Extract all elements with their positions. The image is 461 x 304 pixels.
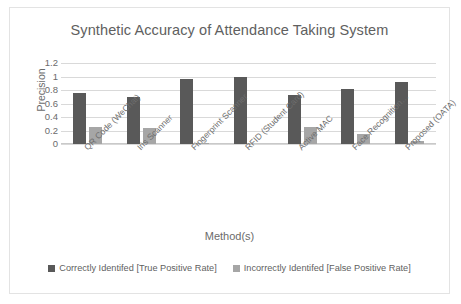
chart-container: Synthetic Accuracy of Attendance Taking …	[9, 7, 450, 294]
y-axis-tick-label: 0.6	[45, 99, 58, 109]
bar[interactable]	[341, 89, 354, 144]
bar[interactable]	[180, 79, 193, 144]
legend-swatch-icon	[233, 265, 240, 272]
y-axis-tick-labels: 00.20.40.60.811.2	[28, 56, 58, 151]
y-axis-tick-label: 0	[53, 139, 58, 149]
legend-item[interactable]: Incorrectly Identifed [False Positive Ra…	[233, 263, 411, 273]
y-axis-tick-label: 0.8	[45, 85, 58, 95]
y-axis-tick-label: 0.2	[45, 126, 58, 136]
legend-label: Correctly Identifed [True Positive Rate]	[59, 263, 216, 273]
chart-legend: Correctly Identifed [True Positive Rate]…	[10, 263, 449, 273]
plot-area	[61, 63, 436, 144]
y-axis-tick-label: 1	[53, 72, 58, 82]
legend-swatch-icon	[48, 265, 55, 272]
chart-title: Synthetic Accuracy of Attendance Taking …	[10, 22, 449, 38]
legend-label: Incorrectly Identifed [False Positive Ra…	[244, 263, 411, 273]
bar[interactable]	[73, 93, 86, 144]
y-axis-tick-label: 1.2	[45, 58, 58, 68]
x-axis-title: Method(s)	[10, 230, 449, 242]
y-axis-tick-label: 0.4	[45, 112, 58, 122]
x-axis-category-labels: QR Code (WeChat)Iris ScannerFingerprint …	[61, 145, 436, 225]
legend-item[interactable]: Correctly Identifed [True Positive Rate]	[48, 263, 216, 273]
bar[interactable]	[395, 82, 408, 144]
